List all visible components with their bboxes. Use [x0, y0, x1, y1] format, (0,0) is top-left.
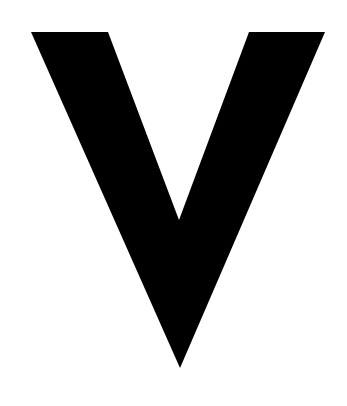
letter-v-icon [0, 0, 347, 406]
canvas: V [0, 0, 347, 406]
